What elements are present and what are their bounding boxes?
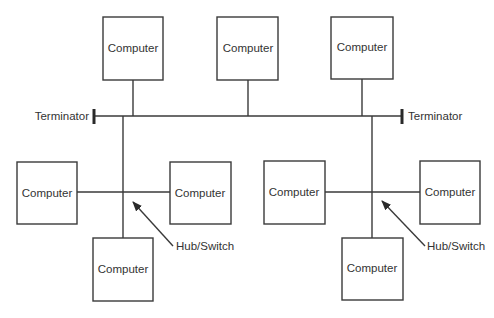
computer-label: Computer bbox=[425, 186, 476, 198]
computer-label: Computer bbox=[22, 187, 73, 199]
computer-label: Computer bbox=[347, 262, 398, 274]
computer-label: Computer bbox=[98, 263, 149, 275]
right-hub-label: Hub/Switch bbox=[427, 240, 485, 252]
left-star-segment: Computer Computer Computer Hub/Switch bbox=[17, 116, 234, 301]
network-diagram: Terminator Terminator Computer Computer … bbox=[0, 0, 494, 318]
top-computer-3: Computer bbox=[331, 17, 393, 116]
left-hub-label: Hub/Switch bbox=[176, 240, 234, 252]
computer-label: Computer bbox=[223, 42, 274, 54]
computer-label: Computer bbox=[337, 41, 388, 53]
right-terminator-label: Terminator bbox=[408, 110, 462, 122]
computer-label: Computer bbox=[175, 187, 226, 199]
left-terminator-label: Terminator bbox=[35, 110, 89, 122]
right-star-segment: Computer Computer Computer Hub/Switch bbox=[264, 116, 485, 300]
top-computer-1: Computer bbox=[103, 17, 163, 116]
computer-label: Computer bbox=[108, 42, 159, 54]
top-computer-2: Computer bbox=[217, 17, 278, 116]
computer-label: Computer bbox=[269, 186, 320, 198]
